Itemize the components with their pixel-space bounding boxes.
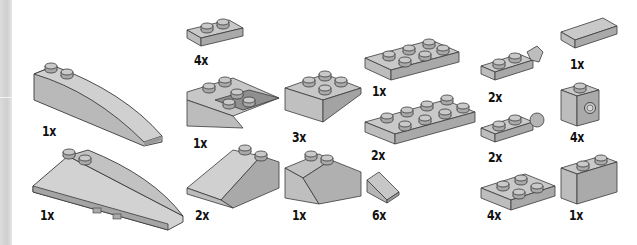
part-plate-1x2 <box>187 14 245 48</box>
hinge-plate-finger-icon <box>481 104 547 146</box>
part-slope-inverted-hollow <box>187 70 279 130</box>
tile-1x2-icon <box>561 16 619 50</box>
slope-inverted-hollow-icon <box>187 70 279 130</box>
qty-label: 1x <box>570 57 584 71</box>
page-edge-strip <box>0 0 12 245</box>
qty-label: 2x <box>195 208 209 222</box>
part-slope-double <box>285 148 361 210</box>
qty-label: 6x <box>372 208 386 222</box>
qty-label: 3x <box>292 130 306 144</box>
part-brick-1x1-side-stud <box>561 80 609 130</box>
part-slope-2x2 <box>187 140 279 210</box>
qty-label: 1x <box>40 208 54 222</box>
part-curved-wedge-left <box>33 146 185 232</box>
qty-label: 2x <box>488 150 502 164</box>
qty-label: 4x <box>570 130 584 144</box>
qty-label: 1x <box>569 208 583 222</box>
part-brick-1x2 <box>561 150 623 208</box>
part-slope-inverted <box>285 68 363 124</box>
strip-divider <box>0 97 12 98</box>
plate-2x2-icon <box>481 166 557 212</box>
plate-1x2-icon <box>187 14 245 48</box>
qty-label: 1x <box>42 124 56 138</box>
slope-double-icon <box>285 148 361 210</box>
part-plate-2x4 <box>365 92 477 146</box>
qty-label: 1x <box>292 208 306 222</box>
brick-1x1-side-stud-icon <box>561 80 609 130</box>
qty-label: 4x <box>194 53 208 67</box>
part-plate-2x3 <box>365 34 461 84</box>
part-plate-2x2 <box>481 166 557 212</box>
plate-2x3-icon <box>365 34 461 84</box>
part-hinge-plate-fork <box>481 42 543 84</box>
slope-cheese-icon <box>365 170 401 204</box>
part-tile-1x2 <box>561 16 619 50</box>
part-slope-cheese <box>365 170 401 204</box>
curved-wedge-left-icon <box>33 146 185 232</box>
plate-2x4-icon <box>365 92 477 146</box>
part-hinge-plate-finger <box>481 104 547 146</box>
slope-inverted-icon <box>285 68 363 124</box>
qty-label: 4x <box>487 208 501 222</box>
hinge-plate-fork-icon <box>481 42 543 84</box>
qty-label: 2x <box>488 90 502 104</box>
slope-2x2-icon <box>187 140 279 210</box>
qty-label: 2x <box>371 148 385 162</box>
brick-1x2-icon <box>561 150 623 208</box>
